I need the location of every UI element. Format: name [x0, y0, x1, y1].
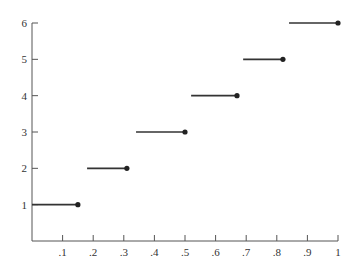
x-tick-label: .8 [273, 246, 282, 258]
y-tick-label: 1 [22, 199, 28, 211]
y-tick-label: 3 [22, 126, 28, 138]
x-axis-ticks: .1.2.3.4.5.6.7.8.91 [58, 235, 340, 258]
y-tick-label: 5 [22, 53, 28, 65]
step-function-chart: 123456 .1.2.3.4.5.6.7.8.91 [0, 0, 361, 269]
closed-endpoint-dot [335, 20, 340, 25]
y-tick-label: 4 [22, 90, 28, 102]
y-tick-label: 6 [22, 17, 28, 29]
closed-endpoint-dot [124, 166, 129, 171]
x-tick-label: .1 [58, 246, 66, 258]
x-tick-label: 1 [335, 246, 341, 258]
x-tick-label: .2 [89, 246, 97, 258]
closed-endpoint-dot [182, 129, 187, 134]
y-axis-ticks: 123456 [22, 17, 39, 211]
x-tick-label: .6 [211, 246, 220, 258]
x-tick-label: .4 [150, 246, 159, 258]
x-tick-label: .3 [120, 246, 129, 258]
step-segments [32, 20, 341, 207]
x-tick-label: .5 [181, 246, 190, 258]
closed-endpoint-dot [234, 93, 239, 98]
y-tick-label: 2 [22, 162, 28, 174]
closed-endpoint-dot [75, 202, 80, 207]
x-tick-label: .9 [303, 246, 312, 258]
closed-endpoint-dot [280, 57, 285, 62]
x-tick-label: .7 [242, 246, 251, 258]
